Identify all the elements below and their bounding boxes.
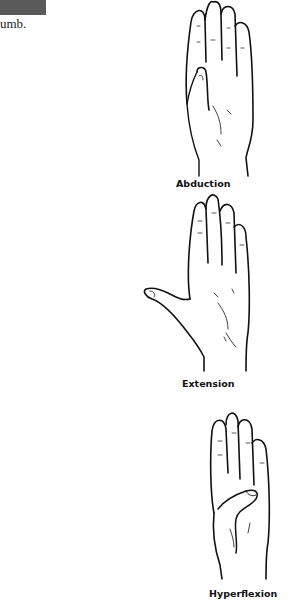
figure-hyperflexion (198, 403, 278, 583)
body-text-fragment: umb. (0, 16, 26, 32)
hand-thumb-hyperflexion-icon (198, 403, 278, 583)
caption-extension: Extension (182, 378, 235, 389)
figure-extension (142, 193, 267, 373)
hand-thumb-abduction-icon (175, 0, 270, 178)
figure-abduction (175, 0, 270, 178)
caption-hyperflexion: Hyperflexion (209, 588, 277, 599)
hand-thumb-extension-icon (142, 193, 267, 373)
section-header-bar (0, 0, 46, 15)
caption-abduction: Abduction (176, 178, 230, 189)
